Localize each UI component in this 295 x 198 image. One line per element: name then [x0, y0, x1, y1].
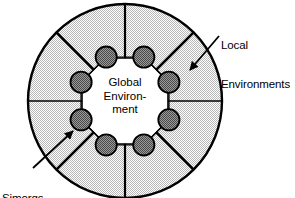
simorg-node — [71, 109, 92, 130]
global-environment-line-3: ment — [92, 103, 158, 117]
simorg-node — [133, 47, 154, 68]
local-environments-label: Local Environments — [221, 13, 290, 117]
simorgs-label: Simorgs — [2, 166, 43, 198]
simorg-node — [71, 72, 92, 93]
simorg-node — [133, 134, 154, 155]
global-environment-line-1: Global — [92, 76, 158, 90]
simorg-node — [96, 47, 117, 68]
global-environment-line-2: Environ- — [92, 90, 158, 104]
diagram-canvas: Global Environ- ment Local Environments … — [0, 0, 295, 198]
local-environments-line-2: Environments — [221, 78, 290, 91]
simorg-node — [158, 109, 179, 130]
local-environments-line-1: Local — [221, 39, 290, 52]
global-environment-label: Global Environ- ment — [92, 76, 158, 117]
simorg-node — [96, 134, 117, 155]
simorg-node — [158, 72, 179, 93]
simorgs-line-1: Simorgs — [2, 192, 43, 198]
